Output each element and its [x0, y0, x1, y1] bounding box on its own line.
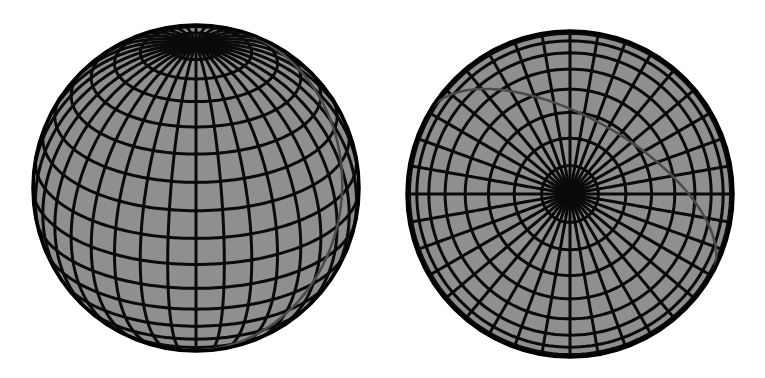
figure-canvas [0, 0, 765, 378]
pole-marker [563, 187, 577, 201]
pole-marker [192, 40, 200, 48]
polar-sphere [407, 31, 733, 357]
oblique-sphere [33, 25, 359, 351]
